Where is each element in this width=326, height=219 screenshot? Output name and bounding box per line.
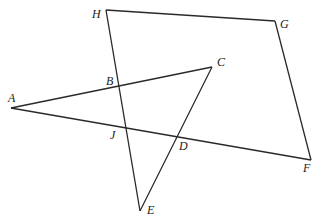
label-e: E <box>146 203 155 217</box>
segment-af <box>11 108 311 160</box>
segment-gf <box>275 21 311 160</box>
segment-ce <box>140 67 212 211</box>
label-b: B <box>106 74 114 88</box>
label-d: D <box>178 139 188 153</box>
segment-he <box>106 10 140 211</box>
segment-hg <box>106 10 275 21</box>
label-f: F <box>302 161 311 175</box>
label-c: C <box>217 55 226 69</box>
label-j: J <box>110 128 116 142</box>
geometry-diagram: A B C D E F G H J <box>0 0 326 219</box>
label-h: H <box>91 7 102 21</box>
label-a: A <box>7 91 16 105</box>
label-g: G <box>280 17 289 31</box>
